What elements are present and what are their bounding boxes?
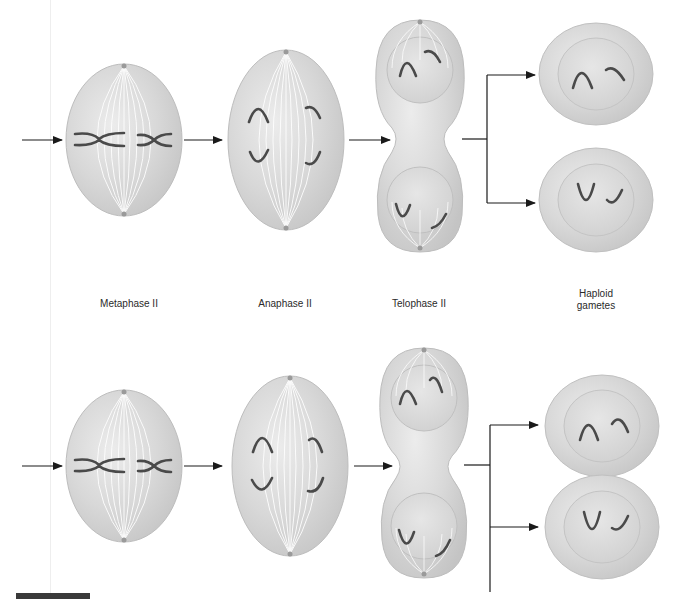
anaphase-cell xyxy=(228,50,344,231)
scan-edge-bar xyxy=(16,593,90,599)
telophase-cell xyxy=(376,20,464,253)
gamete-cell xyxy=(539,23,653,125)
anaphase-cell xyxy=(232,376,348,557)
stage-label-telophase: Telophase II xyxy=(384,298,454,310)
gametes-label-line2: gametes xyxy=(556,300,636,312)
row-top xyxy=(22,20,653,253)
branch-arrow xyxy=(462,75,535,203)
gamete-cell xyxy=(545,375,659,477)
metaphase-cell xyxy=(66,64,182,217)
gamete-cell xyxy=(545,475,659,579)
gametes-label-line1: Haploid xyxy=(556,288,636,300)
row-bottom xyxy=(22,348,659,593)
branch-arrow xyxy=(464,425,538,592)
metaphase-cell xyxy=(66,390,182,543)
stage-label-metaphase: Metaphase II xyxy=(94,298,164,310)
telophase-cell xyxy=(380,348,468,579)
gamete-cell xyxy=(539,148,653,252)
stage-label-gametes: Haploid gametes xyxy=(556,288,636,312)
stage-label-anaphase: Anaphase II xyxy=(250,298,320,310)
